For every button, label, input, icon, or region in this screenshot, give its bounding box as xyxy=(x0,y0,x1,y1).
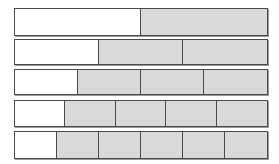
unshaded-segment xyxy=(15,132,57,158)
fraction-bar-row xyxy=(14,69,268,95)
shaded-segment xyxy=(141,132,183,158)
shaded-segment xyxy=(99,132,141,158)
fraction-bar-row xyxy=(14,100,268,127)
shaded-segment xyxy=(166,101,216,126)
unshaded-segment xyxy=(15,9,141,35)
shaded-segment xyxy=(141,70,204,94)
shaded-segment xyxy=(204,70,267,94)
shaded-segment xyxy=(183,132,225,158)
shaded-segment xyxy=(217,101,267,126)
fraction-bar-row xyxy=(14,8,268,36)
unshaded-segment xyxy=(15,40,99,64)
fraction-bar-model xyxy=(0,0,279,164)
fraction-bar-row xyxy=(14,39,268,65)
shaded-segment xyxy=(65,101,115,126)
fraction-bar-row xyxy=(14,131,268,159)
shaded-segment xyxy=(78,70,141,94)
shaded-segment xyxy=(116,101,166,126)
unshaded-segment xyxy=(15,101,65,126)
shaded-segment xyxy=(183,40,267,64)
shaded-segment xyxy=(57,132,99,158)
shaded-segment xyxy=(225,132,267,158)
shaded-segment xyxy=(99,40,183,64)
unshaded-segment xyxy=(15,70,78,94)
shaded-segment xyxy=(141,9,267,35)
